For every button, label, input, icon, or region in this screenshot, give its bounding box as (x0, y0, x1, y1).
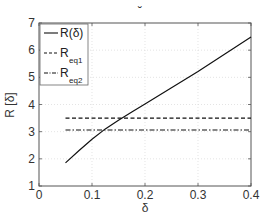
y-tick-label: 3 (28, 125, 35, 139)
y-tick-label: 5 (28, 70, 35, 84)
legend-label: R (60, 46, 69, 60)
legend-label: R(δ) (60, 26, 83, 40)
y-tick-label: 7 (28, 16, 35, 30)
x-tick-label: 0 (36, 188, 43, 202)
y-tick-label: 1 (28, 179, 35, 193)
y-tick-label: 4 (28, 98, 35, 112)
x-tick-label: 0.4 (243, 188, 260, 202)
legend-label: R (60, 66, 69, 80)
data-series (66, 37, 252, 163)
y-tick-label: 2 (28, 152, 35, 166)
x-tick-label: 0.2 (137, 188, 154, 202)
chart-title: ˘ (137, 5, 142, 19)
y-axis-label: R [δ] (3, 92, 17, 117)
series-r- (66, 37, 252, 163)
x-axis-label: δ (142, 201, 149, 215)
chart: 00.10.20.30.41234567 ˘ δ R [δ] R(δ)Req1R… (0, 0, 273, 220)
legend-label-subscript: eq1 (69, 56, 83, 65)
legend-label-subscript: eq2 (69, 76, 83, 85)
x-tick-label: 0.1 (84, 188, 101, 202)
y-tick-label: 6 (28, 43, 35, 57)
legend: R(δ)Req1Req2 (40, 24, 88, 85)
x-tick-label: 0.3 (190, 188, 207, 202)
